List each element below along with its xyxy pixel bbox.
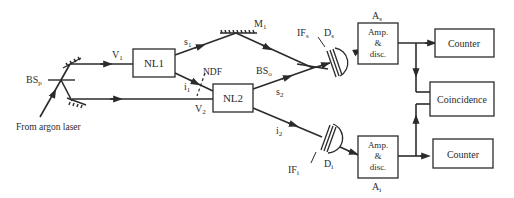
experimental-setup-diagram: NL1 NL2 Amp. & disc. Amp. & disc. Counte… <box>0 0 514 198</box>
nl1-label: NL1 <box>144 57 164 69</box>
as-label: As <box>372 10 382 23</box>
amp-s-line3: disc. <box>370 49 387 59</box>
amp-i-line1: Amp. <box>368 140 388 150</box>
v2-label: V2 <box>195 103 206 116</box>
amp-i-line3: disc. <box>370 162 387 172</box>
bsp-label: BSp <box>26 74 42 87</box>
m1-label: M1 <box>254 18 267 31</box>
counter-s-label: Counter <box>448 38 481 49</box>
mirror-upper <box>63 57 81 68</box>
counter-i-label: Counter <box>447 149 480 160</box>
laser-source-label: From argon laser <box>16 122 82 132</box>
amp-i-line2: & <box>374 151 381 161</box>
ds-label: Ds <box>324 27 334 40</box>
mirror-m1 <box>220 30 257 33</box>
ndf-label: NDF <box>203 67 222 77</box>
di-label: Di <box>324 158 333 171</box>
i2-label: i2 <box>276 125 283 138</box>
amp-s-line2: & <box>374 38 381 48</box>
ifi-label: IFi <box>288 164 299 177</box>
nl2-label: NL2 <box>223 92 243 104</box>
s1-label: s1 <box>184 36 192 49</box>
bso-label: BSo <box>256 65 272 78</box>
ifs-label: IFs <box>297 27 309 40</box>
idler-beam-i2 <box>253 108 322 137</box>
amp-s-line1: Amp. <box>368 27 388 37</box>
v1-label: V1 <box>112 49 123 62</box>
laser-input-beam <box>40 80 61 117</box>
s2-label: s2 <box>276 86 284 99</box>
i1-label: i1 <box>184 81 191 94</box>
detector-ds <box>318 37 348 77</box>
ai-label: Ai <box>372 181 381 194</box>
coincidence-label: Coincidence <box>437 94 488 105</box>
